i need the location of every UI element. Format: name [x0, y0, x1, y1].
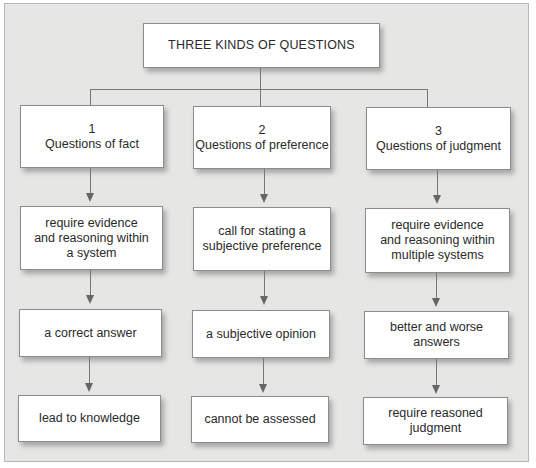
connector-title-down — [260, 68, 261, 89]
arrow-down-icon — [432, 385, 440, 394]
column-2-step-1-box: call for stating a subjective preference — [193, 207, 331, 271]
connector-col2-down — [260, 89, 261, 106]
connector — [89, 357, 90, 385]
connector — [436, 273, 437, 301]
column-1-step-3: lead to knowledge — [39, 411, 140, 426]
arrow-down-icon — [259, 384, 267, 393]
column-3-heading: Questions of judgment — [376, 139, 501, 154]
arrow-down-icon — [260, 194, 268, 203]
connector-col3-down — [427, 89, 428, 107]
arrow-down-icon — [433, 195, 441, 204]
column-1-heading-box: 1 Questions of fact — [20, 105, 164, 168]
connector-col1-down — [90, 89, 91, 105]
arrow-down-icon — [432, 298, 440, 307]
column-1-step-1: require evidence and reasoning within a … — [34, 216, 149, 261]
column-2-step-2-box: a subjective opinion — [192, 310, 330, 358]
arrow-down-icon — [260, 296, 268, 305]
column-2-step-3-box: cannot be assessed — [191, 396, 329, 443]
diagram-title: THREE KINDS OF QUESTIONS — [168, 38, 355, 53]
column-3-number: 3 — [435, 123, 442, 139]
connector — [90, 168, 91, 196]
connector-horizontal — [90, 89, 427, 90]
column-3-step-3: require reasoned judgment — [388, 406, 483, 436]
column-2-heading: Questions of preference — [195, 138, 328, 153]
arrow-down-icon — [86, 295, 94, 304]
column-1-number: 1 — [89, 121, 96, 137]
column-3-step-1: require evidence and reasoning within mu… — [380, 218, 495, 263]
arrow-down-icon — [85, 383, 93, 392]
column-1-step-1-box: require evidence and reasoning within a … — [20, 206, 163, 270]
connector — [436, 359, 437, 388]
connector — [437, 170, 438, 198]
column-3-step-2-box: better and worse answers — [364, 311, 509, 359]
title-box: THREE KINDS OF QUESTIONS — [143, 23, 380, 68]
connector — [90, 270, 91, 298]
column-2-number: 2 — [259, 122, 266, 138]
column-2-step-2: a subjective opinion — [206, 327, 316, 342]
column-2-heading-box: 2 Questions of preference — [193, 106, 331, 169]
column-3-step-1-box: require evidence and reasoning within mu… — [365, 208, 510, 273]
column-1-step-2: a correct answer — [44, 326, 136, 341]
connector — [263, 358, 264, 386]
column-1-step-3-box: lead to knowledge — [18, 395, 161, 442]
arrow-down-icon — [86, 193, 94, 202]
connector — [264, 169, 265, 197]
column-2-step-1: call for stating a subjective preference — [203, 224, 322, 254]
column-3-heading-box: 3 Questions of judgment — [366, 107, 511, 170]
column-3-step-2: better and worse answers — [390, 320, 483, 350]
column-1-step-2-box: a correct answer — [19, 309, 162, 357]
connector — [264, 271, 265, 299]
column-2-step-3: cannot be assessed — [204, 412, 315, 427]
column-1-heading: Questions of fact — [45, 137, 139, 152]
column-3-step-3-box: require reasoned judgment — [363, 397, 508, 445]
